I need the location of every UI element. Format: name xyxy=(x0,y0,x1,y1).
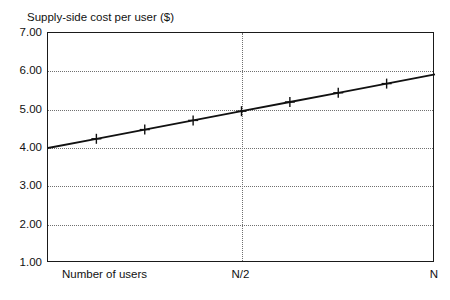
y-tick-label: 4.00 xyxy=(0,141,42,153)
data-point-marker xyxy=(91,134,101,144)
y-tick-label: 1.00 xyxy=(0,256,42,268)
x-axis-title: Number of users xyxy=(62,268,147,281)
plot-area xyxy=(48,33,433,261)
data-point-marker xyxy=(333,88,343,98)
data-point-marker xyxy=(237,106,247,116)
y-tick-label: 5.00 xyxy=(0,103,42,115)
data-series-line xyxy=(48,33,435,263)
x-tick-label: N/2 xyxy=(232,268,250,280)
data-point-marker xyxy=(140,125,150,135)
chart-figure: Supply-side cost per user ($) 7.00 6.00 … xyxy=(0,0,450,300)
plot-frame xyxy=(47,32,434,262)
y-tick-label: 6.00 xyxy=(0,64,42,76)
data-point-marker xyxy=(382,79,392,89)
chart-title: Supply-side cost per user ($) xyxy=(27,10,174,24)
x-tick-label: N xyxy=(430,268,438,280)
data-point-marker xyxy=(285,97,295,107)
data-point-marker xyxy=(188,115,198,125)
series-markers xyxy=(91,79,391,144)
y-tick-label: 7.00 xyxy=(0,26,42,38)
y-tick-label: 2.00 xyxy=(0,218,42,230)
y-tick-label: 3.00 xyxy=(0,179,42,191)
